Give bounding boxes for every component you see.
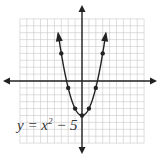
- x-axis-left-arrow-icon: [3, 78, 10, 85]
- data-point: [66, 86, 70, 90]
- parabola-graph: y = x2 − 5: [0, 0, 160, 157]
- equation-label: y = x2 − 5: [15, 116, 78, 133]
- data-point: [73, 106, 77, 110]
- data-point: [94, 86, 98, 90]
- x-axis-right-arrow-icon: [150, 78, 157, 85]
- data-point: [101, 51, 105, 55]
- data-point: [87, 106, 91, 110]
- data-point: [80, 113, 84, 117]
- y-axis-up-arrow-icon: [79, 5, 86, 12]
- data-point: [59, 51, 63, 55]
- y-axis-down-arrow-icon: [79, 147, 86, 154]
